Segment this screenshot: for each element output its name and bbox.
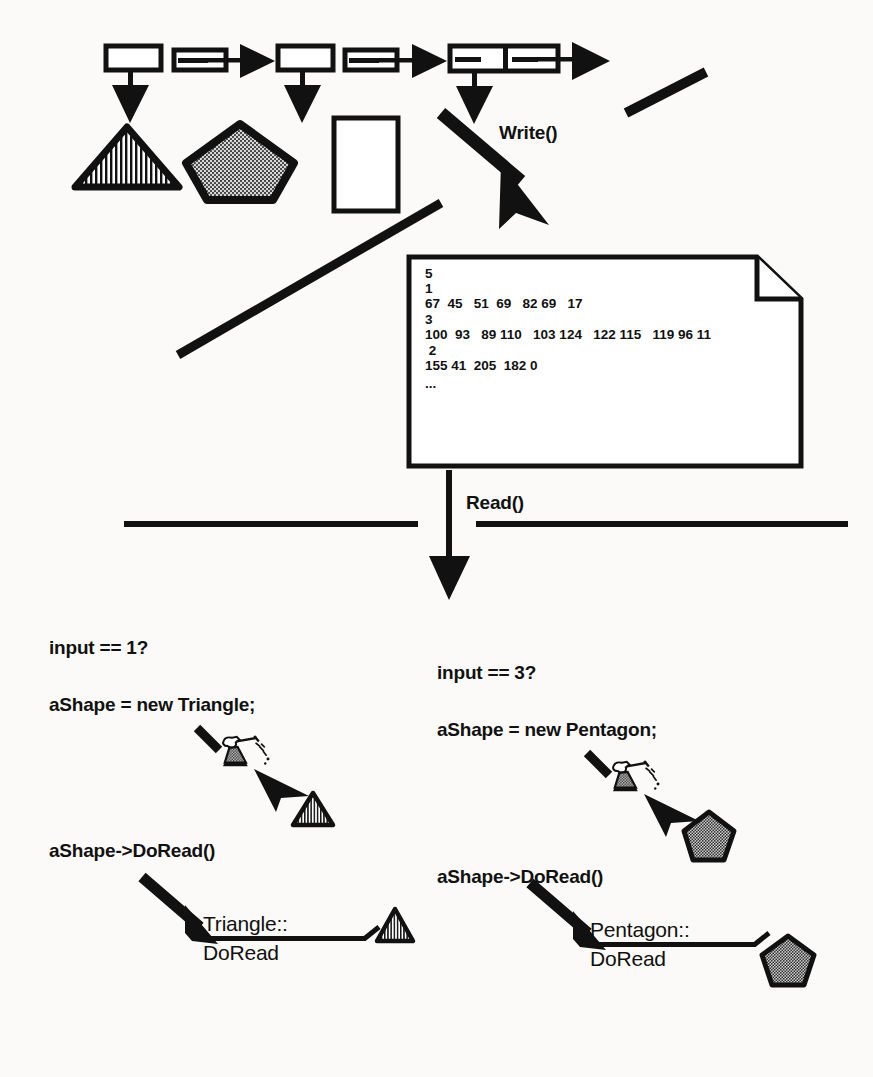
divider-line-left [124,521,418,527]
linked-list-group [106,42,610,124]
shape-triangle-instance [75,127,179,187]
decorative-stroke-top-right [626,72,706,113]
divider-line-right [476,521,848,527]
list-arrow-2 [412,44,447,78]
method-label-pentagon-line2: DoRead [590,947,666,971]
file-line-6: 155 41 205 182 0 [425,358,538,374]
file-line-2: 67 45 51 69 82 69 17 [425,296,583,312]
diagram-canvas: Write() Read() 5 1 67 45 51 69 82 69 17 … [0,0,873,1077]
file-line-7: ... [425,376,436,392]
condition-label-pentagon: input == 3? [437,662,536,684]
dispatch-label-pentagon: aShape->DoRead() [437,866,603,888]
write-operation-label: Write() [499,122,557,144]
list-node-3 [450,46,576,124]
shape-pentagon-instance [186,124,294,200]
list-node-2 [278,46,417,123]
method-result-pentagon-shape [762,936,814,985]
magic-stroke-right [587,753,609,775]
magic-stroke-left [197,728,219,750]
magic-wand-fairy-icon-right [613,761,660,791]
decorative-stroke-mid-left [178,203,441,355]
file-line-4: 100 93 89 110 103 124 122 115 119 96 11 [425,327,711,343]
dispatch-label-triangle: aShape->DoRead() [49,840,215,862]
allocation-label-triangle: aShape = new Triangle; [49,694,255,716]
instantiate-arrow-left [254,769,309,812]
read-arrow [429,470,470,600]
result-triangle-shape [293,793,333,825]
condition-label-triangle: input == 1? [49,637,148,659]
method-label-pentagon-line1: Pentagon:: [590,918,690,942]
list-node-1 [106,46,245,123]
magic-wand-fairy-icon-left [223,736,270,766]
file-line-5: 2 [425,343,436,359]
read-operation-label: Read() [466,492,524,514]
method-result-triangle-shape [377,909,413,941]
file-line-1: 1 [425,281,433,297]
list-arrow-3 [572,42,610,80]
list-arrow-1 [240,44,275,78]
file-line-0: 5 [425,266,433,282]
method-label-triangle-line2: DoRead [203,941,279,965]
allocation-label-pentagon: aShape = new Pentagon; [437,719,657,741]
method-label-triangle-line1: Triangle:: [203,912,288,936]
shape-rectangle-instance [334,118,398,211]
file-line-3: 3 [425,312,433,328]
diagram-vector-layer [0,0,873,1077]
